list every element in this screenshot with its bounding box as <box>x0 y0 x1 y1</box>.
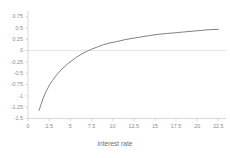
x-axis-title: interest rate <box>0 140 230 148</box>
y-tick-label: -0.75 <box>0 81 23 87</box>
y-tick-label: -0.5 <box>0 70 23 76</box>
x-tick-label: 22.5 <box>206 123 230 129</box>
y-axis-ticks <box>26 17 29 119</box>
axis-lines <box>28 11 226 119</box>
chart-plot-area <box>0 0 230 158</box>
y-tick-label: -1.5 <box>0 115 23 121</box>
y-tick-label: -0.25 <box>0 59 23 65</box>
y-tick-label: 0.75 <box>0 13 23 19</box>
chart-container: 0.750.50.250-0.25-0.5-0.75-1-1.25-1.5 02… <box>0 0 230 158</box>
y-tick-label: -1 <box>0 93 23 99</box>
data-series-line <box>39 29 218 110</box>
x-axis-ticks <box>28 119 218 122</box>
y-tick-label: 0.25 <box>0 36 23 42</box>
y-tick-label: -1.25 <box>0 104 23 110</box>
y-tick-label: 0.5 <box>0 25 23 31</box>
y-tick-label: 0 <box>0 47 23 53</box>
